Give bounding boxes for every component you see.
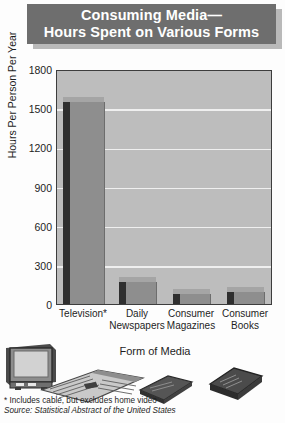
x-axis-tick-label: ConsumerBooks: [211, 308, 279, 331]
x-axis-label: Form of Media: [80, 345, 230, 357]
bar-top-face: [63, 97, 104, 102]
plot-area: [56, 70, 272, 305]
chart-page: Consuming Media— Hours Spent on Various …: [0, 0, 285, 423]
x-axis-tick-line: Consumer: [211, 308, 279, 320]
bar: [70, 97, 104, 304]
chart-footnotes: * Includes cable, but excludes home vide…: [4, 396, 176, 416]
title-line-1: Consuming Media—: [81, 7, 222, 24]
bar-front-face: [126, 282, 157, 304]
bar: [126, 277, 156, 304]
bar-top-face: [227, 287, 264, 292]
y-axis-tick-label: 300: [0, 260, 52, 272]
y-axis-tick-label: 900: [0, 182, 52, 194]
y-axis-tick-label: 1800: [0, 64, 52, 76]
y-axis-label: Hours Per Person Per Year: [6, 0, 18, 195]
bar-front-face: [234, 292, 265, 304]
footnote-text: * Includes cable, but excludes home vide…: [4, 396, 176, 406]
source-text: Source: Statistical Abstract of the Unit…: [4, 406, 176, 416]
bar-top-face: [173, 289, 210, 294]
bar-side-face: [119, 282, 126, 304]
bar-front-face: [180, 294, 211, 304]
y-axis-tick-label: 1200: [0, 142, 52, 154]
bar: [234, 287, 264, 304]
y-axis-tick-label: 0: [0, 299, 52, 311]
bar-side-face: [227, 292, 234, 304]
y-axis-tick-label: 1500: [0, 103, 52, 115]
bar: [180, 289, 210, 304]
chart-title: Consuming Media— Hours Spent on Various …: [27, 4, 276, 44]
book-illustration: [206, 366, 266, 406]
bar-top-face: [119, 277, 156, 282]
bar-front-face: [70, 102, 105, 304]
y-axis-tick-label: 600: [0, 221, 52, 233]
title-line-2: Hours Spent on Various Forms: [44, 24, 260, 41]
x-axis-tick-line: Books: [211, 320, 279, 332]
bar-side-face: [173, 294, 180, 304]
bar-side-face: [63, 102, 70, 304]
